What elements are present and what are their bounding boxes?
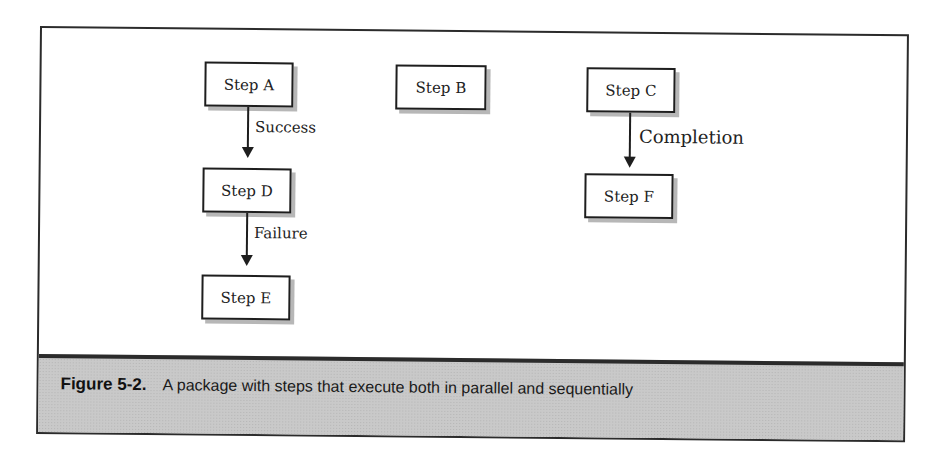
node-step-c: Step C (586, 67, 675, 113)
figure-caption-bar: Figure 5-2. A package with steps that ex… (38, 354, 904, 440)
edge-c-f-line (629, 113, 631, 159)
arrowhead-icon (241, 255, 253, 266)
node-label: Step C (605, 81, 656, 99)
node-label: Step D (221, 181, 273, 199)
node-step-e: Step E (201, 275, 290, 321)
edge-d-e-line (246, 213, 248, 256)
node-label: Step B (416, 78, 467, 96)
node-label: Step A (224, 75, 275, 93)
node-step-f: Step F (584, 173, 673, 219)
node-step-d: Step D (202, 168, 291, 214)
figure-caption-text: A package with steps that execute both i… (162, 376, 633, 399)
figure-frame: Step A Success Step D Failure Step E Ste… (36, 26, 909, 442)
arrowhead-icon (624, 157, 636, 168)
edge-label-success: Success (255, 118, 316, 137)
edge-label-failure: Failure (254, 224, 308, 243)
node-step-a: Step A (204, 62, 293, 108)
arrowhead-icon (242, 147, 254, 158)
node-step-b: Step B (395, 64, 486, 110)
edge-label-completion: Completion (639, 126, 744, 148)
node-label: Step E (221, 288, 272, 306)
figure-number: Figure 5-2. (60, 374, 146, 395)
node-label: Step F (604, 187, 654, 205)
edge-a-d-line (247, 107, 249, 149)
